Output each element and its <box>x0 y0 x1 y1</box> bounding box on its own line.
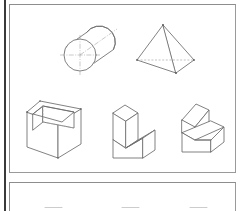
left-edge-rule <box>4 0 6 211</box>
page-root <box>0 0 241 211</box>
lower-figure-panel <box>9 182 236 211</box>
upper-figure-panel <box>9 4 236 173</box>
